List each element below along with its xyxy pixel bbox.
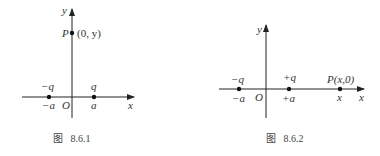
x-axis-label: x	[127, 99, 133, 111]
charge-positive	[287, 87, 291, 91]
y-axis-label: y	[256, 23, 262, 35]
point-p-coord: (0, y)	[77, 27, 101, 40]
point-p-label: P(x,0)	[326, 73, 355, 86]
charge-negative-label: −q	[231, 73, 244, 85]
y-axis-label: y	[61, 4, 67, 16]
position-neg-a: −a	[232, 92, 245, 104]
position-plus-a: +a	[282, 92, 295, 104]
figure-caption: 图 8.6.1	[53, 133, 91, 144]
position-a: a	[91, 99, 97, 111]
origin-label: O	[255, 91, 263, 103]
figure-8-6-2: y −q +q P(x,0) −a O +a x x 图 8.6.2	[219, 23, 364, 144]
x-axis-label: x	[358, 91, 364, 103]
position-x: x	[336, 91, 342, 103]
position-neg-a: −a	[42, 99, 55, 111]
origin-label: O	[62, 99, 70, 111]
charge-positive-label: q	[91, 80, 97, 92]
diagram-canvas: y P (0, y) −q q −a O a x 图 8.6.1 y −q +q…	[0, 0, 380, 156]
charge-negative-label: −q	[41, 80, 54, 92]
point-p-label: P	[61, 27, 69, 39]
charge-negative	[237, 87, 241, 91]
figure-caption: 图 8.6.2	[266, 133, 304, 144]
figure-8-6-1: y P (0, y) −q q −a O a x 图 8.6.1	[22, 4, 134, 144]
point-p	[70, 31, 74, 35]
charge-positive-label: +q	[283, 71, 296, 83]
